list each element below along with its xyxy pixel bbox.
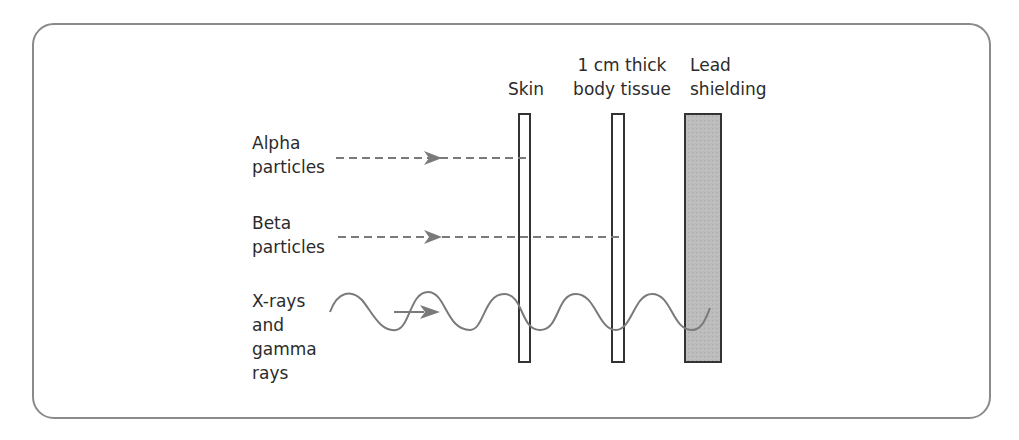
alpha-path [336, 151, 530, 165]
beta-path [338, 230, 622, 244]
alpha-arrow-icon [424, 151, 442, 165]
radiation-penetration-diagram [0, 0, 1019, 440]
beta-arrow-icon [424, 230, 442, 244]
